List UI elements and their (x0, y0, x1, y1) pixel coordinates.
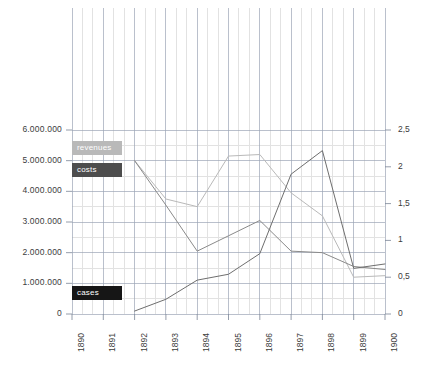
y-axis-right-tick-label: 0 (398, 308, 438, 318)
x-axis-tick-label: 1891 (107, 333, 117, 352)
x-axis-tick-label: 1898 (326, 333, 336, 352)
y-axis-right-tick-label: 0,5 (398, 271, 438, 281)
x-axis-tick-label: 1890 (76, 333, 86, 352)
y-axis-right-tick-label: 2 (398, 161, 438, 171)
y-axis-right-tick-label: 1 (398, 234, 438, 244)
x-axis-tick-label: 1895 (233, 333, 243, 352)
x-axis-tick-label: 1892 (139, 333, 149, 352)
y-axis-left-tick-label: 5.000.000 (0, 155, 62, 165)
y-axis-left-tick-label: 6.000.000 (0, 124, 62, 134)
y-axis-left-tick-label: 3.000.000 (0, 216, 62, 226)
x-axis-tick-label: 1893 (170, 333, 180, 352)
y-axis-left-tick-label: 0 (0, 308, 62, 318)
y-axis-right-tick-label: 2,5 (398, 124, 438, 134)
x-axis-tick-label: 1897 (295, 333, 305, 352)
legend-item-costs[interactable]: costs (72, 163, 122, 177)
chart-plot (0, 0, 438, 367)
y-axis-left-tick-label: 1.000.000 (0, 277, 62, 287)
y-axis-left-tick-label: 4.000.000 (0, 185, 62, 195)
legend-item-cases[interactable]: cases (72, 286, 122, 300)
x-axis-tick-label: 1900 (389, 333, 399, 352)
x-axis-tick-label: 1899 (358, 333, 368, 352)
y-axis-right-tick-label: 1,5 (398, 198, 438, 208)
x-axis-tick-label: 1896 (264, 333, 274, 352)
chart-container: 01.000.0002.000.0003.000.0004.000.0005.0… (0, 0, 438, 367)
y-axis-left-tick-label: 2.000.000 (0, 247, 62, 257)
x-axis-tick-label: 1894 (201, 333, 211, 352)
legend-item-revenues[interactable]: revenues (72, 141, 122, 155)
